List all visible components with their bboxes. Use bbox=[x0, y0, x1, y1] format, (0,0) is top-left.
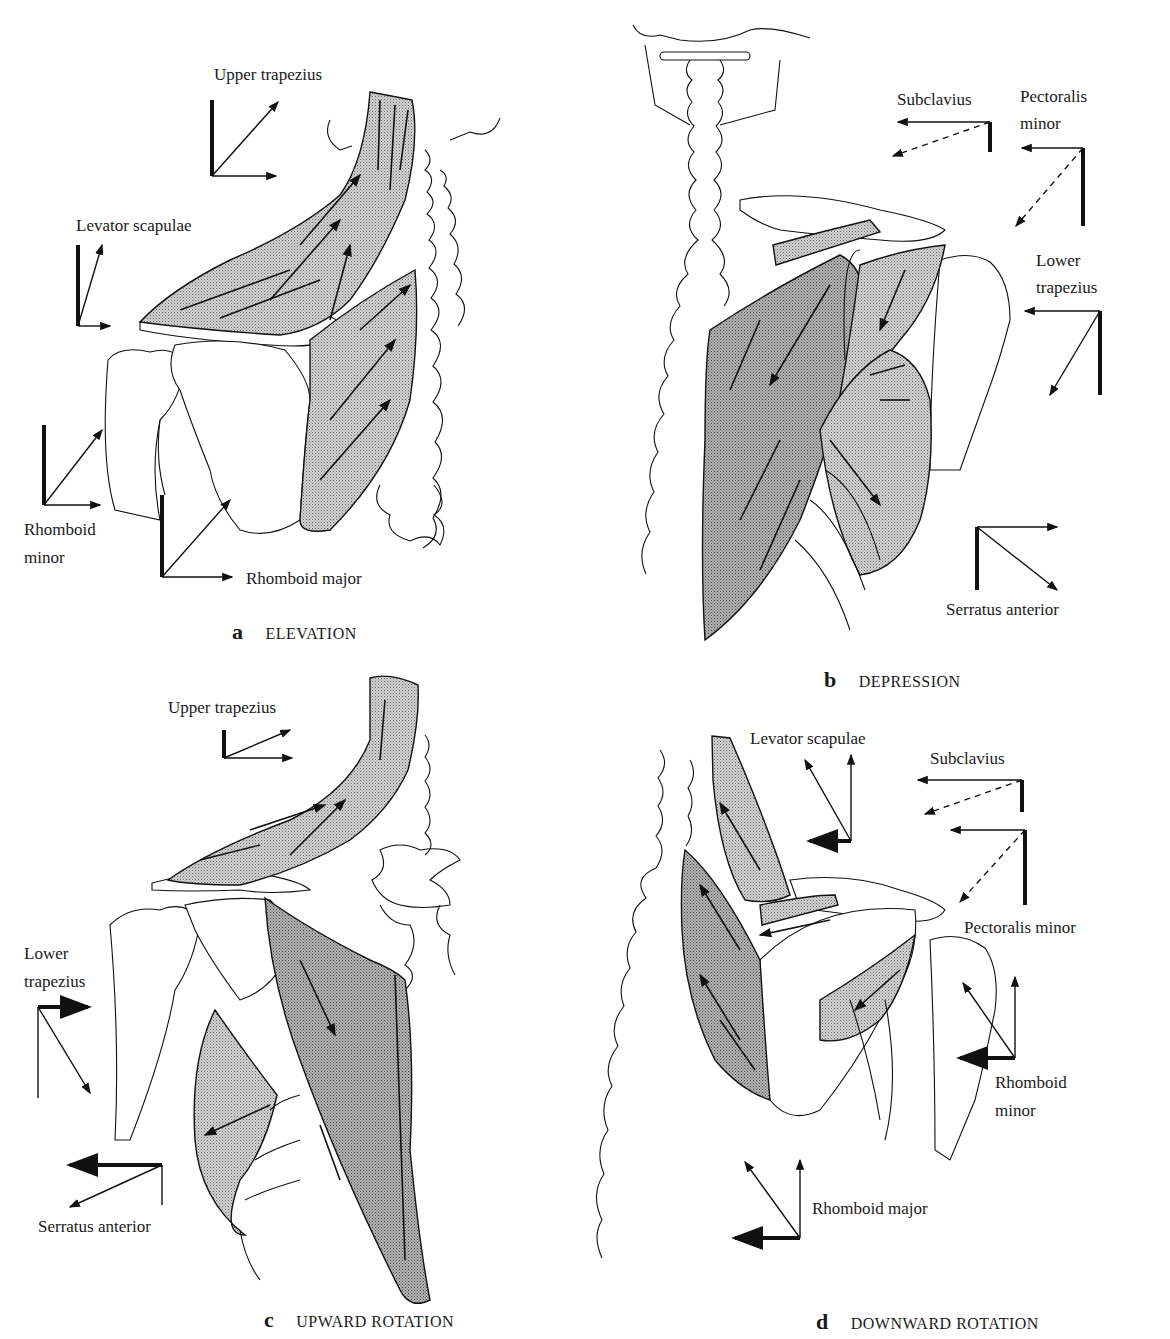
caption-title-b: DEPRESSION bbox=[859, 673, 961, 690]
vector-serratus-anterior-c bbox=[70, 1165, 162, 1207]
vector-pectoralis-minor-b bbox=[1016, 148, 1083, 226]
caption-b: bDEPRESSION bbox=[824, 667, 961, 693]
caption-title-d: DOWNWARD ROTATION bbox=[851, 1315, 1039, 1332]
label-lower-trapezius-b-line2: trapezius bbox=[1036, 277, 1097, 298]
vector-rhomboid-major-a bbox=[162, 495, 232, 577]
label-rhomboid-major-a: Rhomboid major bbox=[246, 568, 362, 589]
label-rhomboid-minor-a-line2: minor bbox=[24, 547, 65, 568]
vector-rhomboid-minor-a bbox=[44, 425, 102, 505]
neck-outline-left bbox=[328, 120, 352, 150]
label-pectoralis-minor-d: Pectoralis minor bbox=[964, 917, 1076, 938]
vector-rhomboid-major-d bbox=[735, 1160, 800, 1238]
label-lower-trapezius-c-line1: Lower bbox=[24, 943, 68, 964]
figure-artwork bbox=[0, 0, 1170, 1339]
caption-a: aELEVATION bbox=[232, 619, 357, 645]
caption-d: dDOWNWARD ROTATION bbox=[816, 1309, 1039, 1335]
label-serratus-anterior-c: Serratus anterior bbox=[38, 1216, 151, 1237]
levator-scapulae-muscle-d bbox=[712, 736, 790, 902]
vector-pectoralis-minor-d bbox=[951, 830, 1025, 905]
panel-c-upward-rotation-drawing bbox=[38, 676, 460, 1303]
caption-title-c: UPWARD ROTATION bbox=[296, 1313, 454, 1330]
label-rhomboid-minor-a-line1: Rhomboid bbox=[24, 519, 96, 540]
vector-subclavius-b bbox=[893, 122, 990, 156]
vector-levator-scapulae-d bbox=[805, 755, 851, 841]
spine-vertebrae-d bbox=[596, 750, 693, 1258]
label-rhomboid-major-d: Rhomboid major bbox=[812, 1198, 928, 1219]
vector-serratus-anterior-b bbox=[977, 527, 1057, 590]
label-pectoralis-minor-b-line2: minor bbox=[1020, 113, 1061, 134]
caption-letter-b: b bbox=[824, 667, 837, 692]
vector-lower-trapezius-b bbox=[1025, 311, 1100, 395]
label-pectoralis-minor-b-line1: Pectoralis bbox=[1020, 86, 1087, 107]
neck-outline-right bbox=[450, 118, 500, 140]
label-levator-scapulae-a: Levator scapulae bbox=[76, 215, 192, 236]
label-rhomboid-minor-d-line1: Rhomboid bbox=[995, 1072, 1067, 1093]
caption-letter-a: a bbox=[232, 619, 244, 644]
label-serratus-anterior-b: Serratus anterior bbox=[946, 599, 1059, 620]
humerus-d bbox=[930, 936, 996, 1160]
label-subclavius-d: Subclavius bbox=[930, 748, 1005, 769]
humerus-c bbox=[110, 907, 200, 1140]
panel-a-elevation-drawing bbox=[44, 92, 500, 577]
vector-upper-trapezius-a bbox=[212, 100, 278, 176]
scapula bbox=[171, 341, 310, 533]
neck-right bbox=[720, 60, 780, 125]
label-lower-trapezius-b-line1: Lower bbox=[1036, 250, 1080, 271]
label-levator-scapulae-d: Levator scapulae bbox=[750, 728, 866, 749]
caption-letter-d: d bbox=[816, 1309, 829, 1334]
humerus-inner-line bbox=[158, 420, 165, 495]
caption-c: cUPWARD ROTATION bbox=[264, 1307, 454, 1333]
vector-lower-trapezius-c bbox=[38, 1007, 90, 1098]
humerus-b bbox=[930, 255, 1010, 470]
label-subclavius-b: Subclavius bbox=[897, 89, 972, 110]
skull-base bbox=[633, 25, 810, 41]
caption-letter-c: c bbox=[264, 1307, 274, 1332]
atlas bbox=[660, 52, 750, 60]
label-upper-trapezius-a: Upper trapezius bbox=[214, 64, 322, 85]
vector-levator-scapulae-a bbox=[78, 245, 110, 326]
label-lower-trapezius-c-line2: trapezius bbox=[24, 971, 85, 992]
panel-d-downward-rotation-drawing bbox=[596, 736, 1025, 1258]
vector-upper-trapezius-c bbox=[224, 730, 292, 758]
vector-subclavius-d bbox=[918, 780, 1022, 814]
lower-trapezius-muscle-c bbox=[265, 898, 430, 1303]
label-upper-trapezius-c: Upper trapezius bbox=[168, 697, 276, 718]
serratus-anterior-muscle-c bbox=[194, 1010, 277, 1235]
caption-title-a: ELEVATION bbox=[266, 625, 357, 642]
label-rhomboid-minor-d-line2: minor bbox=[995, 1100, 1036, 1121]
